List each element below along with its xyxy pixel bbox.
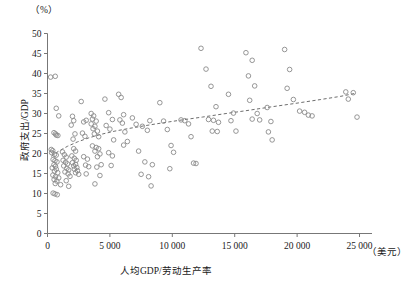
data-point bbox=[351, 90, 356, 95]
x-tick-label: 0 bbox=[45, 241, 50, 251]
y-tick-label: 20 bbox=[32, 149, 42, 159]
data-point bbox=[270, 138, 275, 143]
y-tick-label: 50 bbox=[32, 29, 42, 39]
data-point bbox=[64, 178, 69, 183]
data-point bbox=[119, 95, 124, 100]
y-tick-label: 45 bbox=[32, 49, 42, 59]
data-point bbox=[269, 119, 274, 124]
data-point bbox=[355, 115, 360, 120]
data-point bbox=[199, 46, 204, 51]
data-point bbox=[189, 134, 194, 139]
data-point bbox=[58, 182, 63, 187]
data-point bbox=[206, 117, 211, 122]
y-tick-label: 35 bbox=[32, 89, 42, 99]
data-point bbox=[250, 58, 255, 63]
data-point bbox=[148, 118, 153, 123]
data-point bbox=[150, 162, 155, 167]
x-tick-label: 5 000 bbox=[99, 241, 121, 251]
y-tick-label: 15 bbox=[32, 169, 42, 179]
data-point bbox=[85, 157, 90, 162]
y-tick-label: 40 bbox=[32, 69, 42, 79]
data-point bbox=[291, 97, 296, 102]
data-point bbox=[244, 50, 249, 55]
data-point bbox=[282, 47, 287, 52]
data-point bbox=[169, 143, 174, 148]
data-point bbox=[70, 114, 75, 119]
data-point bbox=[234, 129, 239, 134]
data-point bbox=[98, 152, 103, 157]
data-point bbox=[209, 84, 214, 89]
data-point bbox=[168, 166, 173, 171]
data-point bbox=[69, 123, 74, 128]
data-point bbox=[171, 150, 176, 155]
data-point bbox=[247, 98, 252, 103]
data-point bbox=[73, 132, 78, 137]
data-point bbox=[98, 173, 103, 178]
data-point bbox=[136, 149, 141, 154]
data-point bbox=[165, 127, 170, 132]
data-point bbox=[146, 174, 151, 179]
data-point bbox=[84, 172, 89, 177]
data-point bbox=[216, 120, 221, 125]
data-point bbox=[343, 90, 348, 95]
data-point bbox=[229, 118, 234, 123]
data-point bbox=[252, 84, 257, 89]
data-point bbox=[110, 117, 115, 122]
axes bbox=[44, 34, 372, 238]
data-point bbox=[109, 163, 114, 168]
data-point bbox=[285, 86, 290, 91]
x-tick-label: 20 000 bbox=[284, 241, 310, 251]
data-point bbox=[111, 138, 116, 143]
data-point bbox=[110, 154, 115, 159]
x-tick-label: 25 000 bbox=[346, 241, 372, 251]
data-point bbox=[145, 128, 150, 133]
data-point bbox=[95, 154, 100, 159]
data-point bbox=[158, 100, 163, 105]
data-point bbox=[66, 184, 71, 189]
data-point bbox=[53, 74, 58, 79]
data-point bbox=[106, 110, 111, 115]
y-tick-label: 5 bbox=[37, 209, 42, 219]
data-point bbox=[120, 121, 125, 126]
data-point bbox=[108, 127, 113, 132]
data-point bbox=[71, 118, 76, 123]
data-point bbox=[48, 75, 53, 80]
data-point bbox=[54, 106, 59, 111]
data-point bbox=[211, 118, 216, 123]
data-point bbox=[93, 182, 98, 187]
data-point bbox=[123, 130, 128, 135]
data-point bbox=[266, 130, 271, 135]
data-point bbox=[95, 165, 100, 170]
data-point bbox=[143, 160, 148, 165]
data-point bbox=[255, 111, 260, 116]
data-point bbox=[226, 92, 231, 97]
data-point bbox=[246, 74, 251, 79]
data-point bbox=[204, 67, 209, 72]
data-point bbox=[118, 118, 123, 123]
data-point bbox=[297, 109, 302, 114]
y-tick-label: 10 bbox=[32, 189, 42, 199]
data-point bbox=[210, 129, 215, 134]
data-point bbox=[83, 134, 88, 139]
data-point bbox=[250, 117, 255, 122]
x-tick-label: 15 000 bbox=[222, 241, 248, 251]
y-tick-label: 0 bbox=[37, 229, 42, 239]
data-point bbox=[134, 122, 139, 127]
y-tick-label: 30 bbox=[32, 109, 42, 119]
data-point bbox=[71, 137, 76, 142]
data-point bbox=[125, 139, 130, 144]
data-point bbox=[186, 122, 191, 127]
data-point bbox=[149, 184, 154, 189]
data-point bbox=[139, 172, 144, 177]
data-point bbox=[130, 116, 135, 121]
x-tick-label: 10 000 bbox=[159, 241, 185, 251]
data-point bbox=[214, 104, 219, 109]
data-point bbox=[92, 132, 97, 137]
data-point bbox=[104, 123, 109, 128]
plot-area: 0510152025303540455005 00010 00015 00020… bbox=[0, 0, 415, 287]
data-point bbox=[99, 162, 104, 167]
data-point bbox=[121, 143, 126, 148]
data-point bbox=[79, 99, 84, 104]
scatter-chart: （%） 政府支出/GDP 人均GDP/劳动生产率 （美元） 0510152025… bbox=[0, 0, 415, 287]
data-point bbox=[257, 118, 262, 123]
